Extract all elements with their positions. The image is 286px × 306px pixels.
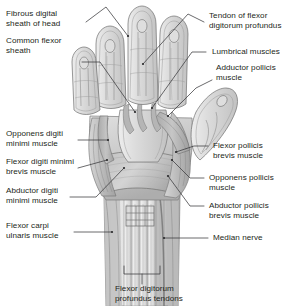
palm-group bbox=[89, 102, 193, 200]
finger-index bbox=[96, 26, 126, 109]
label-adductor-pollicis: Adductor pollicis muscle bbox=[216, 63, 276, 83]
label-opponens-pollicis: Opponens pollicis muscle bbox=[209, 173, 274, 193]
label-flexor-digiti-minimi-brevis: Flexor digiti minimi brevis muscle bbox=[6, 157, 74, 177]
label-tendon-flexor-digitorum-profundus: Tendon of flexor digitorum profundus bbox=[209, 11, 282, 31]
finger-middle bbox=[128, 6, 158, 105]
label-flexor-pollicis-brevis: Flexor pollicis brevis muscle bbox=[213, 141, 263, 161]
label-median-nerve: Median nerve bbox=[213, 233, 263, 243]
label-flexor-digitorum-profundus-tendons: Flexor digitorum profundus tendons bbox=[115, 284, 183, 304]
label-abductor-digiti-minimi: Abductor digiti minimi muscle bbox=[6, 186, 58, 206]
lumbrical-muscles-shape bbox=[123, 102, 161, 134]
label-abductor-pollicis-brevis: Abductor pollicis brevis muscle bbox=[209, 201, 269, 221]
label-flexor-carpi-ulnaris: Flexor carpi ulnaris muscle bbox=[6, 221, 58, 241]
label-lumbrical-muscles: Lumbrical muscles bbox=[212, 47, 280, 57]
label-common-flexor-sheath: Common flexor sheath bbox=[6, 36, 62, 56]
finger-ring bbox=[158, 16, 188, 109]
hand-anatomy-diagram: Fibrous digital sheath of head Common fl… bbox=[0, 0, 286, 306]
label-fibrous-digital-sheath: Fibrous digital sheath of head bbox=[6, 9, 60, 29]
label-opponens-digiti-minimi: Opponens digiti minimi muscle bbox=[6, 129, 63, 149]
